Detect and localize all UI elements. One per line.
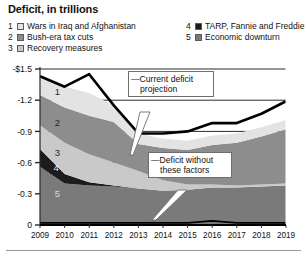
- x-axis-tick-label: 2012: [105, 231, 124, 240]
- x-axis-tick-label: 2019: [277, 231, 296, 240]
- band-number-label: 5: [55, 188, 60, 199]
- callout-line-1: —Deficit without: [151, 155, 227, 165]
- callout-line-1: —Current deficit: [131, 74, 209, 84]
- legend-number: 5: [186, 32, 194, 42]
- legend-item-5[interactable]: 5 Economic downturn: [186, 32, 304, 43]
- y-axis-tick-label: 0: [27, 220, 32, 230]
- y-axis-tick-label: -$1.5: [12, 64, 32, 74]
- legend-number: 1: [8, 21, 16, 31]
- band-number-label: 3: [55, 147, 60, 158]
- band-number-label: 4: [54, 162, 59, 173]
- callout-deficit-without-factors: —Deficit without these factors: [148, 152, 232, 178]
- band-number-label: 2: [55, 117, 60, 128]
- legend-number: 4: [186, 21, 194, 31]
- x-axis-tick-label: 2011: [80, 231, 98, 240]
- band-number-label: 1: [55, 86, 60, 97]
- legend-label: Wars in Iraq and Afghanistan: [27, 21, 136, 31]
- callout-current-deficit-projection: —Current deficit projection: [128, 71, 214, 97]
- legend-swatch-icon: [17, 34, 24, 41]
- callout-line-2: these factors: [151, 165, 227, 175]
- y-axis-tick-label: -0.6: [17, 158, 32, 168]
- legend-label: Bush-era tax cuts: [27, 32, 93, 42]
- legend-number: 3: [8, 43, 16, 53]
- legend: 1 Wars in Iraq and Afghanistan 2 Bush-er…: [8, 21, 300, 57]
- y-axis-tick-label: -0.3: [17, 189, 32, 199]
- x-axis-tick-label: 2014: [154, 231, 173, 240]
- legend-label: TARP, Fannie and Freddie: [205, 21, 304, 31]
- legend-column-left: 1 Wars in Iraq and Afghanistan 2 Bush-er…: [8, 21, 136, 54]
- legend-swatch-icon: [17, 23, 24, 30]
- x-axis-tick-label: 2016: [203, 231, 222, 240]
- y-axis-tick-label: -1.2: [17, 95, 32, 105]
- infographic-root: Deficit, in trillions 1 Wars in Iraq and…: [0, 0, 307, 259]
- legend-item-2[interactable]: 2 Bush-era tax cuts: [8, 32, 136, 43]
- x-axis-tick-label: 2015: [178, 231, 197, 240]
- x-axis-tick-label: 2010: [55, 231, 74, 240]
- legend-label: Recovery measures: [27, 43, 103, 53]
- legend-number: 2: [8, 32, 16, 42]
- x-axis-tick-label: 2017: [228, 231, 247, 240]
- y-axis-tick-label: -0.9: [17, 127, 32, 137]
- x-axis-tick-label: 2018: [252, 231, 271, 240]
- legend-swatch-icon: [17, 45, 24, 52]
- bottom-divider: [6, 250, 301, 251]
- legend-swatch-icon: [195, 23, 202, 30]
- page-title: Deficit, in trillions: [8, 3, 98, 15]
- legend-item-1[interactable]: 1 Wars in Iraq and Afghanistan: [8, 21, 136, 32]
- x-axis-tick-label: 2009: [31, 231, 50, 240]
- legend-swatch-icon: [195, 34, 202, 41]
- legend-item-3[interactable]: 3 Recovery measures: [8, 43, 136, 54]
- legend-item-4[interactable]: 4 TARP, Fannie and Freddie: [186, 21, 304, 32]
- callout-line-2: projection: [131, 84, 209, 94]
- x-axis-tick-label: 2013: [129, 231, 148, 240]
- legend-column-right: 4 TARP, Fannie and Freddie 5 Economic do…: [186, 21, 304, 43]
- legend-label: Economic downturn: [205, 32, 280, 42]
